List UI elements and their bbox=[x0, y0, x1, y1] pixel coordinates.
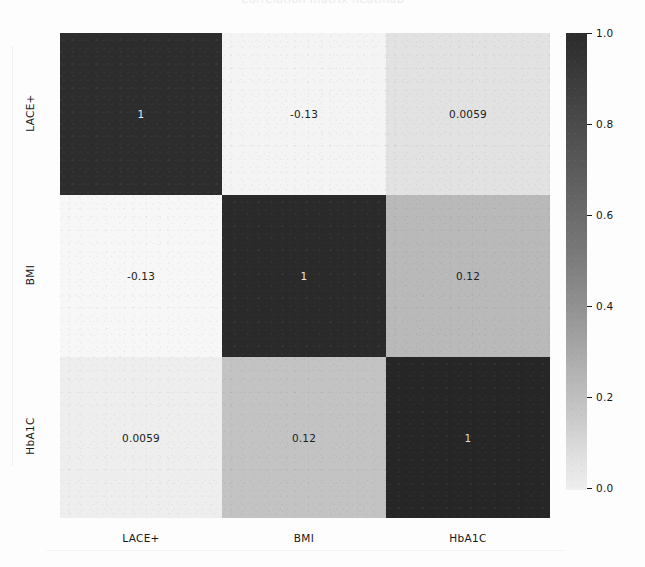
colorbar-tick-0.0: 0.0 bbox=[587, 482, 613, 494]
heatmap-cell: -0.13 bbox=[222, 33, 386, 195]
figure-title: Correlation matrix heatmap bbox=[0, 0, 645, 3]
colorbar-tick-0.8: 0.8 bbox=[587, 118, 613, 130]
colorbar-tick-mark-icon bbox=[587, 397, 592, 398]
colorbar-tick-label: 0.8 bbox=[596, 118, 613, 130]
heatmap-cell: 1 bbox=[222, 195, 386, 357]
heatmap-cell-value: 1 bbox=[301, 270, 308, 282]
heatmap-cell: 0.0059 bbox=[60, 357, 222, 518]
heatmap-cell-value: 0.0059 bbox=[122, 432, 160, 444]
colorbar-tick-label: 0.6 bbox=[596, 209, 613, 221]
heatmap-cell: 1 bbox=[60, 33, 222, 195]
colorbar-tick-mark-icon bbox=[587, 488, 592, 489]
y-tick-label-hba1c: HbA1C bbox=[24, 406, 36, 466]
heatmap-cell: 0.12 bbox=[386, 195, 550, 357]
colorbar-tick-mark-icon bbox=[587, 306, 592, 307]
heatmap-cell-value: -0.13 bbox=[127, 270, 155, 282]
heatmap-cell-value: 0.12 bbox=[456, 270, 480, 282]
colorbar-tick-0.4: 0.4 bbox=[587, 300, 613, 312]
colorbar-tick-mark-icon bbox=[587, 124, 592, 125]
colorbar bbox=[566, 33, 587, 490]
heatmap-grid: 1 -0.13 0.0059 -0.13 1 0.12 0.0059 0.12 … bbox=[60, 33, 550, 518]
colorbar-tick-mark-icon bbox=[587, 215, 592, 216]
heatmap-cell-value: 0.12 bbox=[292, 432, 316, 444]
colorbar-gradient bbox=[566, 33, 587, 490]
colorbar-tick-1.0: 1.0 bbox=[587, 27, 613, 39]
colorbar-tick-label: 0.2 bbox=[596, 391, 613, 403]
scan-edge-left bbox=[12, 46, 13, 466]
heatmap-cell-value: 0.0059 bbox=[449, 108, 487, 120]
colorbar-tick-label: 0.0 bbox=[596, 482, 613, 494]
y-tick-label-bmi: BMI bbox=[24, 245, 36, 305]
colorbar-tick-mark-icon bbox=[587, 33, 592, 34]
colorbar-tick-label: 1.0 bbox=[596, 27, 613, 39]
correlation-heatmap-figure: Correlation matrix heatmap 1 -0.13 0.005… bbox=[0, 0, 645, 567]
x-tick-label-bmi: BMI bbox=[222, 532, 386, 544]
colorbar-tick-0.2: 0.2 bbox=[587, 391, 613, 403]
heatmap-cell: 0.0059 bbox=[386, 33, 550, 195]
heatmap-cell-value: 1 bbox=[465, 432, 472, 444]
colorbar-tick-0.6: 0.6 bbox=[587, 209, 613, 221]
heatmap-cell: 1 bbox=[386, 357, 550, 518]
scan-edge-bottom bbox=[46, 550, 566, 551]
heatmap-cell-value: 1 bbox=[138, 108, 145, 120]
x-tick-label-hba1c: HbA1C bbox=[386, 532, 550, 544]
heatmap-cell: 0.12 bbox=[222, 357, 386, 518]
heatmap-cell: -0.13 bbox=[60, 195, 222, 357]
colorbar-tick-label: 0.4 bbox=[596, 300, 613, 312]
x-tick-label-lace-plus: LACE+ bbox=[60, 532, 222, 544]
heatmap-cell-value: -0.13 bbox=[290, 108, 318, 120]
y-tick-label-lace-plus: LACE+ bbox=[24, 83, 36, 143]
